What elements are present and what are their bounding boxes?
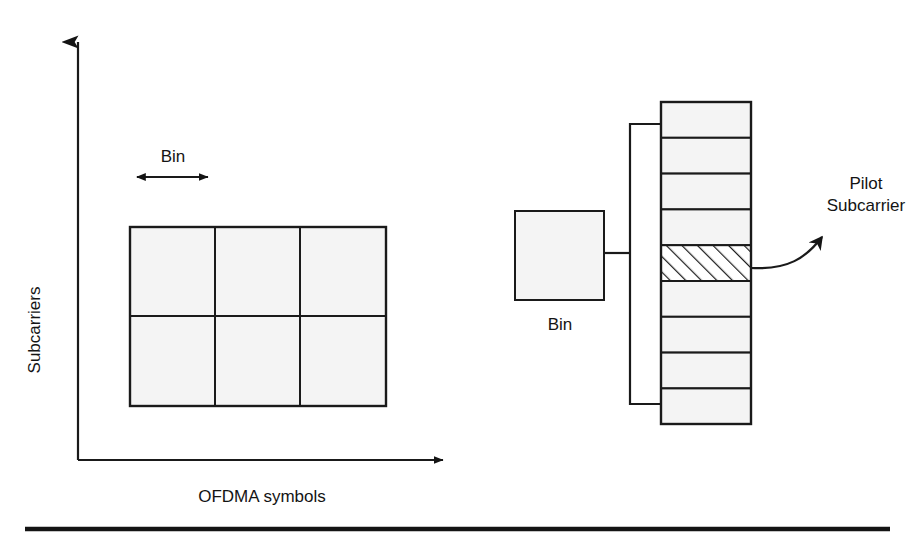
bin-measure-label: Bin [161, 147, 186, 166]
callout-curve [751, 237, 822, 268]
subcarrier-cell [661, 138, 751, 174]
bracket-body [630, 124, 661, 404]
subcarrier-cell [661, 102, 751, 138]
grid-cell [300, 227, 386, 316]
callout-label-line1: Pilot [849, 174, 882, 193]
resource-grid [130, 227, 386, 406]
bin-measure-group: Bin [137, 147, 208, 177]
figure-page: Subcarriers OFDMA symbols Bin Bin [0, 0, 917, 542]
bin-box-label: Bin [548, 315, 573, 334]
subcarrier-cell [661, 388, 751, 424]
bin-box-group: Bin [515, 211, 604, 334]
subcarrier-cell [661, 209, 751, 245]
subcarrier-stack [661, 102, 751, 424]
subcarrier-cell [661, 317, 751, 353]
grid-cell [215, 316, 300, 406]
subcarrier-cell [661, 174, 751, 210]
x-axis-label: OFDMA symbols [198, 487, 326, 506]
bin-box [515, 211, 604, 300]
grid-cell [130, 316, 215, 406]
subcarrier-cell [661, 353, 751, 389]
grid-cell [300, 316, 386, 406]
grid-cell [215, 227, 300, 316]
grid-cell [130, 227, 215, 316]
callout-label-line2: Subcarrier [827, 196, 906, 215]
pilot-subcarrier-callout: Pilot Subcarrier [751, 174, 906, 268]
ofdma-bin-diagram: Subcarriers OFDMA symbols Bin Bin [0, 0, 917, 542]
y-axis-label: Subcarriers [25, 287, 44, 374]
pilot-subcarrier-cell [661, 245, 751, 281]
bracket-connector [604, 124, 661, 404]
subcarrier-cell [661, 281, 751, 317]
